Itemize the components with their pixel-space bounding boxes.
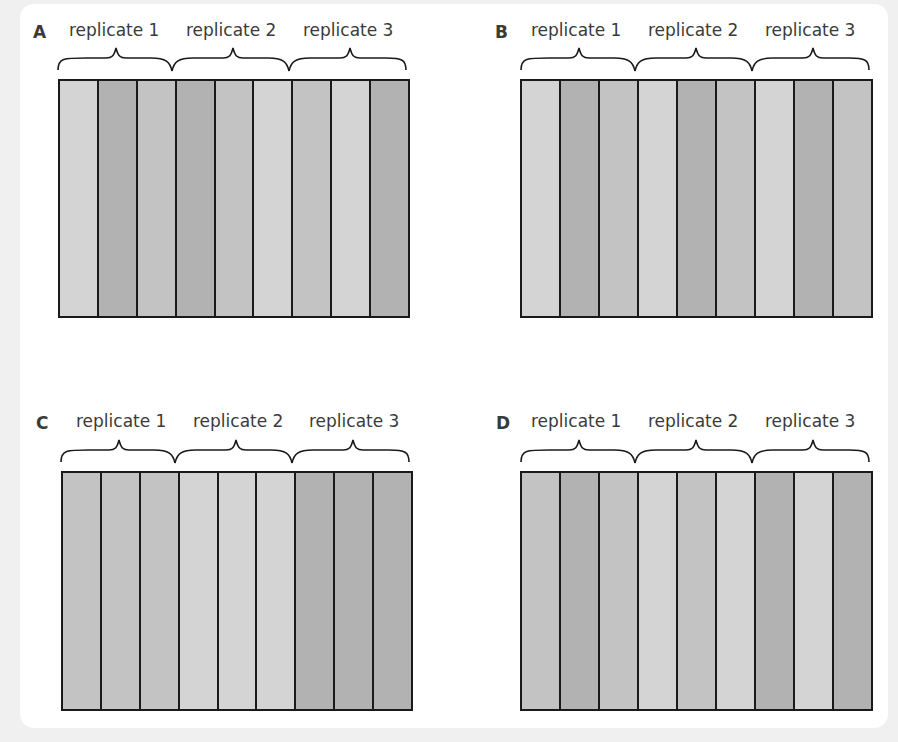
plot-strip-medium [102, 473, 139, 709]
plot-strip-medium [138, 81, 175, 316]
plot-strip-light [180, 473, 217, 709]
panel-label: A [33, 22, 46, 42]
plot-strip-medium [678, 473, 715, 709]
plot-strips [520, 79, 873, 318]
plot-strip-dark [756, 473, 793, 709]
plot-strip-light [257, 473, 294, 709]
panel-label: C [36, 413, 48, 433]
plot-strips [58, 79, 410, 318]
plot-strip-light [639, 81, 676, 316]
plot-strip-dark [678, 81, 715, 316]
plot-strip-dark [561, 473, 598, 709]
plot-strip-light [756, 81, 793, 316]
plot-strip-dark [374, 473, 411, 709]
plot-strip-dark [371, 81, 408, 316]
replicate-label: replicate 1 [531, 20, 621, 40]
plot-strip-dark [335, 473, 372, 709]
plot-strip-dark [795, 81, 832, 316]
replicate-label: replicate 3 [303, 20, 393, 40]
plot-strips [61, 471, 413, 711]
replicate-label: replicate 1 [531, 411, 621, 431]
replicate-label: replicate 2 [193, 411, 283, 431]
plot-strip-dark [99, 81, 136, 316]
panel-label: D [496, 413, 510, 433]
replicate-braces [519, 438, 871, 468]
plot-strip-dark [296, 473, 333, 709]
replicate-braces [519, 46, 871, 76]
plot-strip-light [254, 81, 291, 316]
replicate-label: replicate 2 [648, 411, 738, 431]
plot-strip-medium [600, 81, 637, 316]
plot-strip-light [795, 473, 832, 709]
plot-strip-dark [561, 81, 598, 316]
replicate-label: replicate 1 [76, 411, 166, 431]
plot-strip-light [60, 81, 97, 316]
replicate-label: replicate 2 [186, 20, 276, 40]
plot-strip-medium [834, 81, 871, 316]
replicate-braces [56, 46, 408, 76]
replicate-label: replicate 1 [69, 20, 159, 40]
plot-strip-medium [216, 81, 253, 316]
plot-strip-dark [834, 473, 871, 709]
replicate-label: replicate 2 [648, 20, 738, 40]
plot-strip-medium [600, 473, 637, 709]
plot-strip-medium [293, 81, 330, 316]
plot-strip-light [639, 473, 676, 709]
plot-strip-medium [63, 473, 100, 709]
plot-strip-light [332, 81, 369, 316]
plot-strip-medium [522, 473, 559, 709]
plot-strip-light [717, 473, 754, 709]
panel-label: B [495, 22, 508, 42]
plot-strip-dark [177, 81, 214, 316]
plot-strip-light [219, 473, 256, 709]
plot-strips [520, 471, 873, 711]
plot-strip-medium [717, 81, 754, 316]
replicate-label: replicate 3 [765, 20, 855, 40]
plot-strip-light [522, 81, 559, 316]
replicate-braces [59, 438, 411, 468]
plot-strip-medium [141, 473, 178, 709]
replicate-label: replicate 3 [309, 411, 399, 431]
replicate-label: replicate 3 [765, 411, 855, 431]
